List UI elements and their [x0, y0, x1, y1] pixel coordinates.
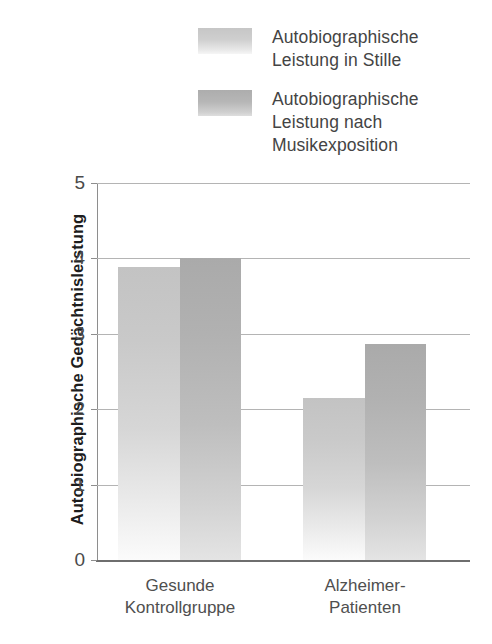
ytick-label-5: 5 [74, 172, 85, 194]
legend-swatch-silence [198, 28, 252, 54]
bar-silence-patients [303, 398, 365, 560]
xtick-label-patients: Alzheimer- Patienten [290, 575, 440, 619]
bar-chart: Autobiographische Leistung in Stille Aut… [0, 0, 492, 644]
y-axis-title: Autobiographische Gedächtnisleistung [68, 175, 87, 565]
legend-label-music: Autobiographische Leistung nach Musikexp… [272, 88, 488, 157]
ytick-label-3: 3 [74, 323, 85, 345]
legend-label-silence: Autobiographische Leistung in Stille [272, 26, 488, 72]
xtick-label-control: Gesunde Kontrollgruppe [105, 575, 255, 619]
plot-area: 5 4 3 2 1 0 Gesunde Kontrollgruppe Alzhe… [97, 183, 470, 560]
ytick-label-2: 2 [74, 398, 85, 420]
x-axis-line [96, 560, 470, 562]
ytick-label-4: 4 [74, 247, 85, 269]
legend-item-silence: Autobiographische Leistung in Stille [198, 26, 488, 72]
bar-music-patients [365, 344, 426, 560]
bar-silence-control [118, 267, 180, 560]
legend-swatch-music [198, 90, 252, 116]
ytick-mark-4 [91, 258, 97, 259]
ytick-mark-1 [91, 485, 97, 486]
legend-item-music: Autobiographische Leistung nach Musikexp… [198, 88, 488, 157]
ytick-mark-2 [91, 409, 97, 410]
chart-legend: Autobiographische Leistung in Stille Aut… [198, 26, 488, 173]
gridline-5 [97, 183, 470, 184]
ytick-label-0: 0 [74, 549, 85, 571]
ytick-label-1: 1 [74, 474, 85, 496]
y-axis-line [97, 183, 98, 560]
bar-music-control [180, 258, 241, 560]
gridline-4 [97, 258, 470, 259]
ytick-mark-0 [91, 560, 97, 561]
ytick-mark-5 [91, 183, 97, 184]
ytick-mark-3 [91, 334, 97, 335]
